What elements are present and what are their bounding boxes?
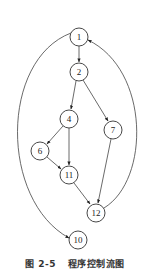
node-4: 4 — [60, 110, 78, 128]
nodes: 1 2 4 7 6 11 12 10 — [31, 28, 122, 249]
node-7: 7 — [104, 121, 122, 139]
svg-text:11: 11 — [65, 170, 74, 180]
svg-text:7: 7 — [111, 125, 116, 135]
control-flow-graph: 1 2 4 7 6 11 12 10 — [0, 0, 150, 273]
svg-text:1: 1 — [77, 32, 82, 42]
figure-caption: 图 2-5 程序控制流图 — [0, 257, 150, 270]
edge-11-12 — [74, 183, 90, 204]
svg-text:10: 10 — [74, 235, 84, 245]
svg-text:2: 2 — [77, 67, 82, 77]
edge-2-7 — [83, 80, 108, 121]
figure-number: 图 2-5 — [25, 259, 56, 269]
figure-title: 程序控制流图 — [68, 259, 125, 269]
edge-7-12 — [98, 139, 111, 203]
edge-4-6 — [47, 126, 63, 144]
edge-6-11 — [47, 157, 61, 169]
node-12: 12 — [87, 204, 105, 222]
node-10: 10 — [69, 231, 87, 249]
node-11: 11 — [60, 166, 78, 184]
edge-2-4 — [71, 81, 76, 109]
node-1: 1 — [70, 28, 88, 46]
svg-text:4: 4 — [67, 114, 72, 124]
node-2: 2 — [70, 63, 88, 81]
svg-text:12: 12 — [92, 208, 101, 218]
edge-1-10-left-arc — [17, 33, 71, 238]
node-6: 6 — [31, 142, 49, 160]
svg-text:6: 6 — [38, 146, 43, 156]
